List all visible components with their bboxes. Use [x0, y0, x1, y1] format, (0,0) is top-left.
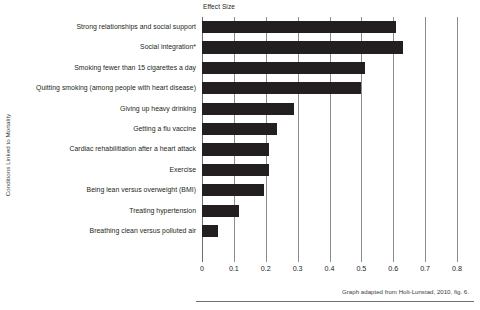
category-label: Quitting smoking (among people with hear… — [36, 78, 196, 98]
bar[interactable] — [202, 82, 361, 94]
category-label-column: Strong relationships and social supportS… — [14, 17, 200, 262]
category-label: Giving up heavy drinking — [120, 99, 196, 119]
category-label: Strong relationships and social support — [76, 17, 196, 37]
category-label: Being lean versus overweight (BMI) — [87, 180, 196, 200]
bar-row[interactable] — [202, 119, 457, 139]
bar-row[interactable] — [202, 58, 457, 78]
x-tick-label: 0.1 — [229, 264, 239, 273]
bar-row[interactable] — [202, 139, 457, 159]
category-label: Treating hypertension — [129, 201, 196, 221]
chart-figure: Conditions Linked to Mortality Effect Si… — [0, 0, 480, 310]
plot-area — [202, 17, 457, 262]
bar[interactable] — [202, 123, 277, 135]
x-tick-label: 0.7 — [420, 264, 430, 273]
bar[interactable] — [202, 184, 264, 196]
x-tick-label: 0.5 — [356, 264, 366, 273]
x-tick-label: 0.6 — [388, 264, 398, 273]
bar-row[interactable] — [202, 201, 457, 221]
x-tick-label: 0.8 — [452, 264, 462, 273]
chart-title: Effect Size — [203, 3, 235, 10]
bar[interactable] — [202, 62, 365, 74]
x-tick-label: 0.3 — [293, 264, 303, 273]
x-tick-label: 0 — [200, 264, 204, 273]
x-tick-label: 0.4 — [325, 264, 335, 273]
bar[interactable] — [202, 205, 239, 217]
bar-row[interactable] — [202, 221, 457, 241]
bottom-divider — [196, 301, 474, 302]
bar-row[interactable] — [202, 78, 457, 98]
bar-row[interactable] — [202, 37, 457, 57]
category-label: Getting a flu vaccine — [133, 119, 196, 139]
category-label: Cardiac rehabilitiation after a heart at… — [69, 139, 196, 159]
bar-row[interactable] — [202, 160, 457, 180]
bar[interactable] — [202, 225, 218, 237]
category-label: Social integration* — [140, 37, 196, 57]
bar[interactable] — [202, 21, 396, 33]
bar[interactable] — [202, 103, 294, 115]
category-label: Smoking fewer than 15 cigarettes a day — [74, 58, 196, 78]
bar-row[interactable] — [202, 17, 457, 37]
category-label: Breathing clean versus polluted air — [90, 221, 196, 241]
source-note: Graph adapted from Holt-Lunstad, 2010, f… — [342, 288, 469, 295]
x-axis-tick-labels: 00.10.20.30.40.50.60.70.8 — [202, 264, 472, 276]
bar[interactable] — [202, 41, 403, 53]
category-label: Exercise — [169, 160, 196, 180]
bar[interactable] — [202, 143, 269, 155]
bar-row[interactable] — [202, 99, 457, 119]
x-tick-label: 0.2 — [261, 264, 271, 273]
bar-row[interactable] — [202, 180, 457, 200]
gridline-0_8 — [457, 17, 458, 262]
y-axis-title: Conditions Linked to Mortality — [0, 0, 14, 310]
bar[interactable] — [202, 164, 269, 176]
